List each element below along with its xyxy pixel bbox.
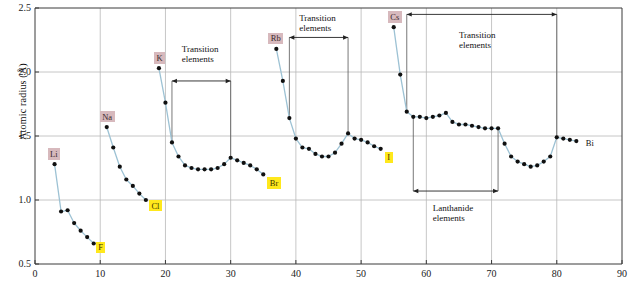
arrow-head-right (493, 189, 498, 193)
annotation-line-2: elements (299, 23, 331, 33)
data-point (118, 165, 122, 169)
data-point (72, 221, 76, 225)
data-point (157, 66, 161, 70)
element-label-bi: Bi (583, 137, 596, 148)
data-point (359, 138, 363, 142)
arrow-head-left (407, 12, 412, 16)
data-point (561, 136, 565, 140)
element-label-i: I (385, 152, 393, 163)
data-point (542, 160, 546, 164)
data-point (411, 115, 415, 119)
data-point (170, 140, 174, 144)
data-point (183, 163, 187, 167)
data-point (202, 167, 206, 171)
data-point (131, 184, 135, 188)
data-point (163, 101, 167, 105)
data-point (333, 151, 337, 155)
annotation-line-2: elements (459, 40, 491, 50)
data-point (489, 126, 493, 130)
data-point (209, 167, 213, 171)
annotation-line-1: Transition (182, 44, 219, 54)
data-point (124, 177, 128, 181)
data-point (372, 144, 376, 148)
data-point (405, 110, 409, 114)
data-point (287, 116, 291, 120)
arrow-head-right (226, 79, 231, 83)
data-point (476, 125, 480, 129)
series-line-2 (159, 68, 263, 174)
data-point (294, 136, 298, 140)
data-point (463, 122, 467, 126)
data-point (444, 111, 448, 115)
data-point (568, 138, 572, 142)
data-point (522, 162, 526, 166)
data-point (496, 126, 500, 130)
data-point (437, 113, 441, 117)
annotation-line-1: Transition (299, 13, 336, 23)
data-point (229, 156, 233, 160)
data-point (66, 208, 70, 212)
data-point (137, 192, 141, 196)
data-point (59, 209, 63, 213)
data-point (503, 142, 507, 146)
data-point (379, 147, 383, 151)
data-point (392, 25, 396, 29)
data-point (574, 139, 578, 143)
series-line-3 (276, 49, 380, 157)
data-point (555, 135, 559, 139)
data-point (424, 116, 428, 120)
data-point (281, 79, 285, 83)
element-label-na: Na (100, 111, 115, 122)
arrow-head-left (413, 189, 418, 193)
arrow-head-left (289, 35, 294, 39)
data-point (431, 115, 435, 119)
data-point (339, 142, 343, 146)
data-point (274, 47, 278, 51)
annotation-line-2: elements (433, 213, 465, 223)
data-point (320, 154, 324, 158)
data-point (450, 120, 454, 124)
arrow-head-right (343, 35, 348, 39)
element-label-li: Li (48, 148, 61, 159)
data-point (85, 235, 89, 239)
plot-area (0, 0, 628, 292)
element-label-k: K (154, 52, 165, 63)
element-label-cs: Cs (388, 11, 402, 22)
data-point (529, 165, 533, 169)
data-point (189, 166, 193, 170)
annotation-transition-4: Transitionelements (182, 44, 219, 65)
data-point (457, 122, 461, 126)
data-point (144, 198, 148, 202)
data-point (516, 160, 520, 164)
data-point (105, 125, 109, 129)
data-point (261, 172, 265, 176)
data-point (509, 154, 513, 158)
annotation-line-1: Transition (459, 30, 496, 40)
data-point (255, 167, 259, 171)
data-point (352, 136, 356, 140)
data-point (313, 152, 317, 156)
series-line-1 (107, 127, 146, 200)
data-point (196, 167, 200, 171)
arrow-head-left (172, 79, 177, 83)
annotation-transition-5: Transitionelements (299, 13, 336, 34)
data-point (235, 158, 239, 162)
data-point (216, 166, 220, 170)
data-point (242, 161, 246, 165)
series-line-0 (55, 164, 94, 243)
data-point (548, 154, 552, 158)
data-point (346, 131, 350, 135)
annotation-line-1: Lanthanide (433, 203, 473, 213)
element-label-rb: Rb (268, 33, 283, 44)
data-point (470, 124, 474, 128)
data-point (418, 115, 422, 119)
data-point (248, 163, 252, 167)
data-point (366, 140, 370, 144)
data-point (398, 72, 402, 76)
data-point (307, 147, 311, 151)
data-point (52, 162, 56, 166)
element-label-br: Br (267, 177, 281, 188)
data-point (111, 145, 115, 149)
arrow-head-right (552, 12, 557, 16)
data-point (222, 162, 226, 166)
